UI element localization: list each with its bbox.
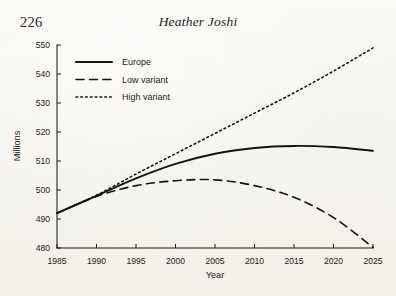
chart-plot-area: 480490500510520530540550 198519901995200… — [0, 34, 396, 286]
legend-label-europe: Europe — [122, 57, 151, 67]
x-tick-label: 2010 — [245, 256, 264, 266]
y-tick-label: 530 — [36, 98, 51, 108]
y-axis-title: Millions — [12, 130, 22, 161]
x-tick-label: 1995 — [126, 256, 145, 266]
series-line-high-variant — [57, 48, 373, 213]
y-axis-tick-labels: 480490500510520530540550 — [36, 40, 51, 253]
x-tick-label: 1985 — [47, 256, 66, 266]
y-tick-label: 540 — [36, 69, 51, 79]
y-tick-label: 500 — [36, 185, 51, 195]
x-tick-label: 2020 — [324, 256, 343, 266]
x-tick-label: 2025 — [363, 256, 382, 266]
x-tick-label: 1990 — [87, 256, 106, 266]
x-tick-label: 2005 — [205, 256, 224, 266]
x-tick-label: 2015 — [284, 256, 303, 266]
data-series-group — [57, 48, 373, 248]
x-axis-tick-labels: 198519901995200020052010201520202025 — [47, 256, 382, 266]
x-tick-label: 2000 — [166, 256, 185, 266]
x-axis-title: Year — [206, 270, 225, 280]
y-tick-label: 480 — [36, 243, 51, 253]
legend-label-high-variant: High variant — [122, 92, 171, 102]
x-axis-ticks — [57, 244, 373, 248]
running-head: 226 Heather Joshi — [0, 14, 396, 34]
y-tick-label: 550 — [36, 40, 51, 50]
y-axis-ticks — [57, 45, 61, 248]
y-tick-label: 520 — [36, 127, 51, 137]
series-line-low-variant — [57, 179, 373, 247]
y-tick-label: 490 — [36, 214, 51, 224]
y-tick-label: 510 — [36, 156, 51, 166]
population-projection-chart: 480490500510520530540550 198519901995200… — [0, 34, 396, 286]
chart-legend: EuropeLow variantHigh variant — [76, 57, 171, 102]
legend-label-low-variant: Low variant — [122, 75, 169, 85]
page-title: Heather Joshi — [0, 14, 396, 30]
